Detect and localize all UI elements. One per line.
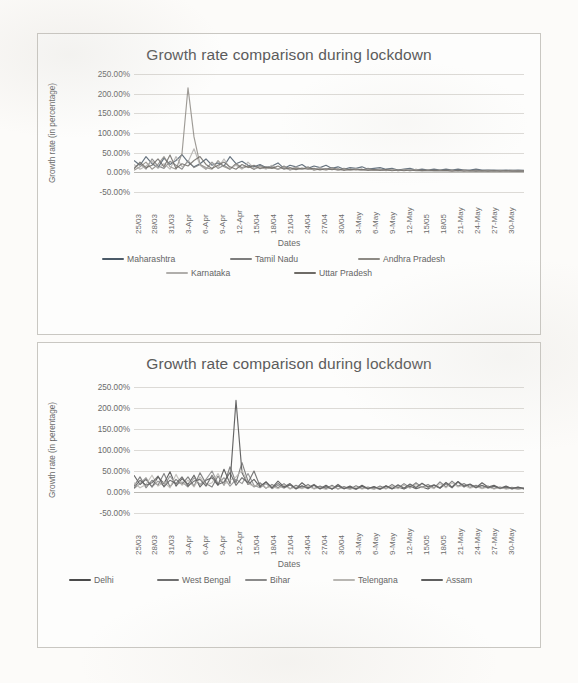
legend-swatch-icon [294,272,316,275]
pw2-x-axis-label: Dates [38,559,540,569]
x-tick-label: 28/03 [150,214,159,234]
document-page: Growth rate comparison during lockdown G… [0,0,578,683]
x-tick-label: 21/04 [286,214,295,234]
legend-item[interactable]: Uttar Pradesh [294,268,422,278]
y-tick-label: 50.00% [102,467,130,476]
legend-item[interactable]: Assam [421,575,509,585]
x-tick-label: 15/04 [252,214,261,234]
legend-label: Telengana [358,575,398,585]
legend-item[interactable]: Delhi [69,575,157,585]
x-tick-label: 6-Apr [201,214,210,234]
legend-item[interactable]: West Bengal [157,575,245,585]
x-tick-label: 28/03 [150,535,159,555]
y-tick-label: -50.00% [100,188,131,197]
x-tick-label: 18/04 [269,535,278,555]
x-tick-label: 6-May [371,212,380,234]
y-tick-label: 0.00% [107,168,130,177]
legend-label: Uttar Pradesh [319,268,372,278]
x-tick-label: 12-May [405,207,414,234]
chart-2-title: Growth rate comparison during lockdown [38,355,540,373]
legend-item[interactable]: Karnataka [166,268,294,278]
pw2-legend: DelhiWest BengalBiharTelenganaAssam [38,575,540,585]
chart-card-1[interactable]: Growth rate comparison during lockdown G… [37,33,541,335]
y-tick-label: 150.00% [98,425,130,434]
x-tick-label: 30-May [507,528,516,555]
x-tick-label: 15/05 [422,214,431,234]
y-tick-label: 150.00% [98,109,130,118]
legend-label: Delhi [94,575,114,585]
x-tick-label: 31/03 [167,535,176,555]
legend-item[interactable]: Andhra Pradesh [358,254,486,264]
x-tick-label: 27-May [490,207,499,234]
x-tick-label: 12-May [405,528,414,555]
y-tick-label: 250.00% [98,70,130,79]
series-line [134,155,524,171]
legend-swatch-icon [69,579,91,582]
x-tick-label: 12-Apr [235,210,244,234]
y-tick-label: 200.00% [98,89,130,98]
pw2-y-axis-label: Growth rate (in perentage) [48,387,57,513]
x-tick-label: 30/04 [337,535,346,555]
legend-label: West Bengal [182,575,231,585]
chart-card-2[interactable]: Growth rate comparison during lockdown G… [37,342,541,648]
x-tick-label: 12-Apr [235,531,244,555]
x-tick-label: 3-May [354,212,363,234]
y-tick-label: 100.00% [98,446,130,455]
pw2-x-ticks: 25/0328/0331/033-Apr6-Apr9-Apr12-Apr15/0… [134,515,524,555]
series-line [134,149,524,171]
y-tick-label: 0.00% [107,488,130,497]
x-tick-label: 24-May [473,528,482,555]
x-tick-label: 21/04 [286,535,295,555]
pw1-series-lines [134,74,524,192]
x-tick-label: 24/04 [303,214,312,234]
legend-swatch-icon [166,272,188,275]
legend-label: Tamil Nadu [255,254,298,264]
legend-label: Assam [446,575,472,585]
x-tick-label: 24/04 [303,535,312,555]
legend-item[interactable]: Tamil Nadu [230,254,358,264]
pw2-y-ticks: 250.00%200.00%150.00%100.00%50.00%0.00%-… [82,387,130,513]
x-tick-label: 3-Apr [184,214,193,234]
x-tick-label: 31/03 [167,214,176,234]
pw1-y-ticks: 250.00%200.00%150.00%100.00%50.00%0.00%-… [82,74,130,192]
x-tick-label: 6-Apr [201,535,210,555]
legend-swatch-icon [358,258,380,261]
x-tick-label: 18/05 [439,214,448,234]
legend-item[interactable]: Bihar [245,575,333,585]
pw2-plot-area [134,387,524,513]
y-tick-label: 50.00% [102,148,130,157]
x-tick-label: 3-May [354,533,363,555]
pw1-y-axis-label: Growth rate (in percentage) [48,74,57,192]
x-tick-label: 18/05 [439,535,448,555]
x-tick-label: 27/04 [320,535,329,555]
legend-swatch-icon [102,258,124,261]
x-tick-label: 21-May [456,528,465,555]
legend-item[interactable]: Telengana [333,575,421,585]
legend-swatch-icon [230,258,252,261]
chart-1-title: Growth rate comparison during lockdown [38,46,540,64]
legend-item[interactable]: Maharashtra [102,254,230,264]
legend-swatch-icon [157,579,179,582]
pw1-plot-area [134,74,524,192]
pw1-x-ticks: 25/0328/0331/033-Apr6-Apr9-Apr12-Apr15/0… [134,194,524,234]
legend-label: Bihar [270,575,290,585]
x-tick-label: 30/04 [337,214,346,234]
y-tick-label: 250.00% [98,383,130,392]
pw1-x-axis-label: Dates [38,238,540,248]
x-tick-label: 27-May [490,528,499,555]
x-tick-label: 9-Apr [218,214,227,234]
series-line [134,88,524,171]
x-tick-label: 25/03 [134,535,143,555]
legend-label: Maharashtra [127,254,175,264]
x-tick-label: 15/05 [422,535,431,555]
x-tick-label: 25/03 [134,214,143,234]
y-tick-label: 100.00% [98,129,130,138]
gridline [134,513,524,514]
x-tick-label: 6-May [371,533,380,555]
x-tick-label: 9-May [388,212,397,234]
legend-swatch-icon [421,579,443,582]
legend-label: Karnataka [191,268,230,278]
x-tick-label: 18/04 [269,214,278,234]
x-tick-label: 3-Apr [184,535,193,555]
x-tick-label: 30-May [507,207,516,234]
